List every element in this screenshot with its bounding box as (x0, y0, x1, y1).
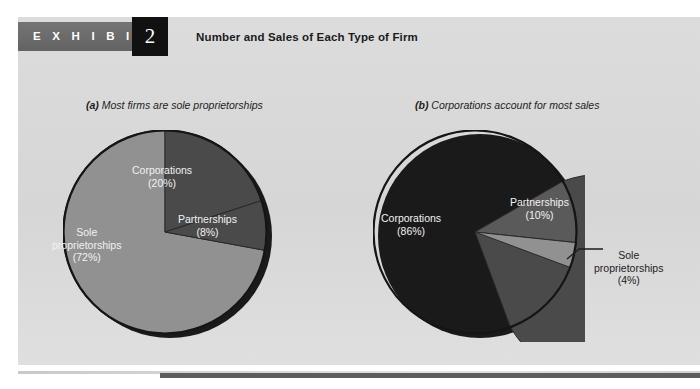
chart-a-caption-text: Most firms are sole proprietorships (99, 99, 263, 111)
pie-b-label-sole-line1: Sole (618, 249, 639, 261)
pie-b-label-corporations-pct: (86%) (381, 225, 441, 238)
pie-b-label-partnerships-pct: (10%) (510, 209, 569, 222)
pie-b-label-corporations-name: Corporations (381, 212, 441, 224)
pie-a-label-corporations: Corporations (20%) (132, 164, 192, 189)
pie-a-label-sole-line2: proprietorships (52, 239, 121, 252)
pie-a-label-sole-pct: (72%) (52, 251, 121, 264)
pie-a-label-sole-proprietorships: Sole proprietorships (72%) (52, 226, 121, 264)
pie-a-label-partnerships-name: Partnerships (178, 213, 237, 225)
pie-a-label-corporations-name: Corporations (132, 164, 192, 176)
pie-b-label-partnerships-name: Partnerships (510, 196, 569, 208)
pie-b-label-sole-line2: proprietorships (594, 262, 663, 275)
footer-rule-dark (160, 373, 700, 378)
pie-b-label-sole-pct: (4%) (594, 274, 663, 287)
pie-b-label-partnerships: Partnerships (10%) (510, 196, 569, 221)
pie-b-label-sole-proprietorships: Sole proprietorships (4%) (594, 249, 663, 287)
chart-a-caption-tag: (a) (86, 99, 99, 111)
pie-a-label-corporations-pct: (20%) (132, 177, 192, 190)
exhibit-number: 2 (132, 25, 168, 48)
pie-a-label-partnerships-pct: (8%) (178, 226, 237, 239)
chart-b-caption-text: Corporations account for most sales (428, 99, 599, 111)
chart-b-caption-tag: (b) (415, 99, 428, 111)
pie-a-label-partnerships: Partnerships (8%) (178, 213, 237, 238)
chart-a-caption: (a) Most firms are sole proprietorships (86, 99, 263, 112)
exhibit-title: Number and Sales of Each Type of Firm (196, 30, 418, 44)
pie-b-label-corporations: Corporations (86%) (381, 212, 441, 237)
chart-b-caption: (b) Corporations account for most sales (415, 99, 599, 112)
exhibit-figure: E X H I B I T 2 Number and Sales of Each… (0, 0, 700, 389)
pie-a-label-sole-line1: Sole (76, 226, 97, 238)
